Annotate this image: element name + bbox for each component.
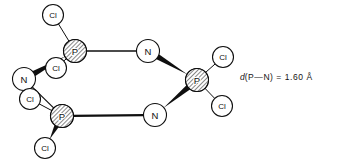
atom-cl-inner-upper: Cl bbox=[46, 58, 67, 79]
atom-label-cl-inner-upper: Cl bbox=[52, 64, 60, 73]
atom-label-n-top: N bbox=[145, 46, 152, 57]
annotation-body: (P—N) = 1.60 Å bbox=[245, 72, 313, 82]
atom-label-cl-top-left: Cl bbox=[49, 11, 57, 20]
atom-label-cl-bottom-left: Cl bbox=[41, 144, 49, 153]
atom-n-top: N bbox=[137, 40, 160, 63]
atom-cl-inner-lower: Cl bbox=[20, 89, 41, 110]
atom-label-cl-top-right: Cl bbox=[219, 53, 227, 62]
bond-p-upper-left--cl-top-left bbox=[58, 24, 69, 42]
atom-cl-bottom-right: Cl bbox=[212, 96, 233, 117]
atom-label-p-right: P bbox=[194, 75, 200, 86]
atom-cl-top-right: Cl bbox=[213, 47, 234, 68]
atom-label-p-lower-left: P bbox=[59, 111, 65, 122]
atom-n-bottom: N bbox=[144, 104, 167, 127]
atom-label-n-left: N bbox=[21, 74, 28, 85]
atom-label-p-upper-left: P bbox=[72, 46, 78, 57]
bond-n-top--p-right bbox=[156, 54, 187, 74]
atom-p-upper-left: PP bbox=[64, 40, 87, 63]
bond-n-bottom--p-lower-left bbox=[73, 115, 144, 116]
bond-p-right--n-bottom bbox=[163, 85, 190, 108]
atom-label-cl-inner-lower: Cl bbox=[26, 95, 34, 104]
atom-p-lower-left: PP bbox=[51, 105, 74, 128]
atom-p-right: PP bbox=[186, 69, 209, 92]
atom-cl-top-left: Cl bbox=[43, 5, 64, 26]
atom-label-n-bottom: N bbox=[152, 110, 159, 121]
molecular-structure-figure: ClPPClNClPPClNNPPClCl d(P—N) = 1.60 Å bbox=[0, 0, 340, 164]
atom-cl-bottom-left: Cl bbox=[35, 138, 56, 159]
bond-distance-annotation: d(P—N) = 1.60 Å bbox=[240, 72, 313, 82]
atom-n-left: N bbox=[13, 68, 36, 91]
bond-p-right--cl-top-right bbox=[205, 64, 215, 73]
bond-p-right--cl-bottom-right bbox=[205, 88, 215, 99]
molecule-canvas: ClPPClNClPPClNNPPClCl bbox=[0, 0, 340, 164]
atom-label-cl-bottom-right: Cl bbox=[218, 102, 226, 111]
atom-layer: ClPPClNClPPClNNPPClCl bbox=[13, 5, 234, 159]
